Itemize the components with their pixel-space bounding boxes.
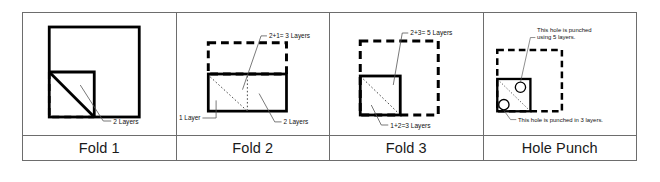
caption-fold-3: Fold 3 (386, 140, 427, 156)
punch-hole-upper (515, 82, 525, 92)
fold1-layers-label: 2 Layers (113, 118, 139, 126)
fold-1-drawing: 2 Layers (23, 13, 176, 135)
caption-cell-fold-2: Fold 2 (176, 136, 330, 161)
punch-top-label-line1: This hole is punched (537, 27, 592, 33)
fold2-dashed-rect (208, 43, 286, 74)
fold1-fold-edges (49, 72, 94, 117)
caption-fold-2: Fold 2 (232, 140, 273, 156)
caption-row: Fold 1 Fold 2 Fold 3 Hole Punch (23, 136, 637, 161)
punch-top-label-line2: using 5 layers. (537, 34, 576, 40)
panel-fold-3-diagram: 2+3= 5 Layers 1+2=3 Layers (330, 13, 484, 136)
caption-cell-hole-punch: Hole Punch (483, 136, 637, 161)
fold-2-drawing: 2+1= 3 Layers 1 Layer 2 Layers (177, 13, 330, 135)
panels-table-wrapper: 2 Layers (22, 12, 637, 158)
fold2-right-leader (259, 94, 281, 122)
diagram-row: 2 Layers (23, 13, 637, 136)
panel-fold-2-diagram: 2+1= 3 Layers 1 Layer 2 Layers (176, 13, 330, 136)
fold3-bottom-label: 1+2=3 Layers (390, 122, 431, 130)
punch-bottom-label: This hole is punched in 3 layers. (517, 117, 602, 123)
fold-3-drawing: 2+3= 5 Layers 1+2=3 Layers (330, 13, 483, 135)
panels-table: 2 Layers (22, 12, 637, 161)
panel-hole-punch-diagram: This hole is punched using 5 layers. Thi… (483, 13, 637, 136)
fold2-top-label: 2+1= 3 Layers (268, 32, 309, 40)
hole-punch-drawing: This hole is punched using 5 layers. Thi… (484, 13, 637, 135)
caption-cell-fold-1: Fold 1 (23, 136, 177, 161)
punch-hole-lower (498, 100, 508, 110)
fold2-left-label: 1 Layer (178, 114, 200, 122)
punch-top-leader (520, 38, 535, 83)
panel-fold-1-diagram: 2 Layers (23, 13, 177, 136)
caption-cell-fold-3: Fold 3 (330, 136, 484, 161)
fold2-right-label: 2 Layers (283, 118, 308, 126)
caption-hole-punch: Hole Punch (522, 140, 598, 156)
punch-hidden-diagonal (499, 81, 528, 109)
fold3-top-label: 2+3= 5 Layers (410, 29, 453, 37)
fold2-solid-rect (208, 74, 286, 111)
caption-fold-1: Fold 1 (79, 140, 120, 156)
paper-folding-figure: 2 Layers (0, 0, 660, 182)
